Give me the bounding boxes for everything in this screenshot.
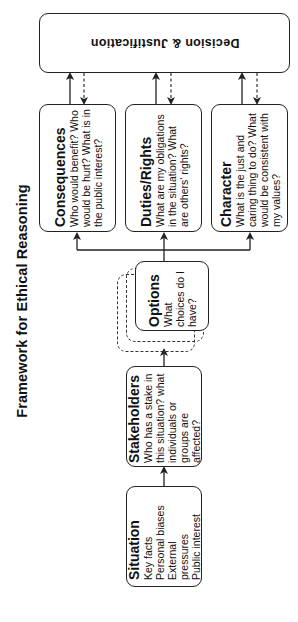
decision-label: Decision & Justification (90, 36, 239, 50)
lens-consequences-box: Consequences Who would benefit? Who woul… (39, 104, 116, 232)
lens-title: Duties/Rights (138, 109, 154, 227)
situation-line: External pressures (166, 494, 190, 580)
lens-body: Who would benefit? Who would be hurt? Wh… (68, 109, 104, 227)
stakeholders-box: Stakeholders Who has a stake in this sit… (126, 366, 202, 467)
lens-character-box: Character What is the just and caring th… (211, 104, 288, 232)
options-body: What choices do I have? (162, 265, 198, 327)
lens-title: Consequences (52, 109, 68, 227)
options-box: Options What choices do I have? (135, 261, 209, 331)
situation-line: Public interest (190, 494, 202, 580)
situation-content: Situation Key facts Personal biases Exte… (126, 494, 202, 580)
situation-title: Situation (126, 494, 142, 580)
stakeholders-title: Stakeholders (126, 371, 142, 463)
lens-body: What is the just and caring thing to do?… (234, 109, 282, 227)
lens-duties-rights-box: Duties/Rights What are my obligations in… (125, 104, 202, 232)
options-title: Options (146, 265, 162, 327)
lens-duties-rights-content: Duties/Rights What are my obligations in… (138, 109, 190, 227)
lens-consequences-content: Consequences Who would benefit? Who woul… (52, 109, 104, 227)
options-content: Options What choices do I have? (146, 265, 198, 327)
situation-box: Situation Key facts Personal biases Exte… (126, 486, 202, 587)
lens-character-content: Character What is the just and caring th… (218, 109, 282, 227)
situation-line: Key facts (142, 494, 154, 580)
decision-box: Decision & Justification (39, 13, 290, 73)
lens-body: What are my obligations in the situation… (154, 109, 190, 227)
diagram-title-frame: Framework for Ethical Reasoning (10, 190, 34, 412)
lens-title: Character (218, 109, 234, 227)
stakeholders-body: Who has a stake in this situation? what … (142, 371, 202, 463)
stakeholders-content: Stakeholders Who has a stake in this sit… (126, 371, 202, 463)
situation-line: Personal biases (154, 494, 166, 580)
diagram-title: Framework for Ethical Reasoning (14, 184, 30, 418)
